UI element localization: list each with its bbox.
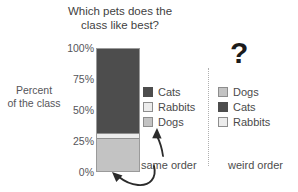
panel-divider — [208, 68, 209, 166]
y-tick-50: 50% — [58, 105, 94, 116]
caption-weird-order: weird order — [228, 159, 283, 171]
bar-segment-dogs — [97, 139, 139, 171]
legend-item-cats: Cats — [143, 84, 195, 99]
question-mark-annotation: ? — [230, 38, 248, 68]
caption-same-order: same order — [141, 159, 197, 171]
bar-segment-cats — [97, 49, 139, 133]
y-tick-100: 100% — [58, 43, 94, 54]
legend-label-dogs: Dogs — [158, 116, 184, 128]
chart-title: Which pets does the class like best? — [52, 4, 188, 32]
y-tick-75: 75% — [58, 74, 94, 85]
legend-swatch-dogs-alt-icon — [218, 87, 228, 97]
legend-item-cats-alt: Cats — [218, 99, 270, 114]
legend-swatch-rabbits-alt-icon — [218, 117, 228, 127]
legend-label-rabbits-alt: Rabbits — [233, 116, 270, 128]
legend-item-rabbits: Rabbits — [143, 99, 195, 114]
legend-swatch-cats-alt-icon — [218, 102, 228, 112]
legend-swatch-cats-icon — [143, 87, 153, 97]
chart-title-line-1: Which pets does the — [52, 4, 188, 18]
legend-label-rabbits: Rabbits — [158, 101, 195, 113]
legend-label-cats: Cats — [158, 86, 181, 98]
y-axis-label-line-1: Percent — [0, 84, 68, 97]
legend-swatch-rabbits-icon — [143, 102, 153, 112]
legend-item-dogs-alt: Dogs — [218, 84, 270, 99]
legend-item-dogs: Dogs — [143, 114, 195, 129]
chart-figure: Which pets does the class like best? Per… — [0, 0, 298, 192]
arrow-up-to-legend-icon — [152, 128, 163, 156]
y-tick-25: 25% — [58, 136, 94, 147]
legend-item-rabbits-alt: Rabbits — [218, 114, 270, 129]
legend-same-order: Cats Rabbits Dogs — [143, 84, 195, 129]
legend-weird-order: Dogs Cats Rabbits — [218, 84, 270, 129]
legend-label-dogs-alt: Dogs — [233, 86, 259, 98]
y-tick-0: 0% — [58, 167, 94, 178]
legend-label-cats-alt: Cats — [233, 101, 256, 113]
legend-swatch-dogs-icon — [143, 117, 153, 127]
stacked-bar — [96, 48, 140, 172]
chart-title-line-2: class like best? — [52, 18, 188, 32]
